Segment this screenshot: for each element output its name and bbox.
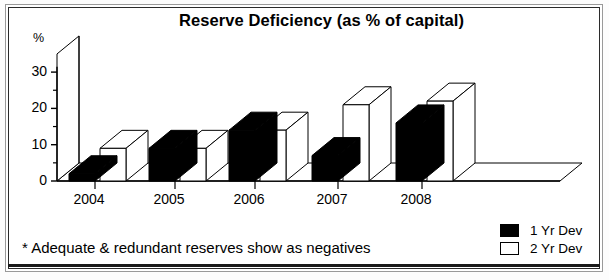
legend-swatch-hollow-icon — [500, 242, 519, 255]
y-tick-label: 20 — [21, 99, 47, 115]
x-tick-label: 2007 — [297, 191, 367, 207]
y-tick-label: 0 — [21, 172, 47, 188]
x-tick-label: 2005 — [134, 191, 204, 207]
legend-item-2-yr-dev: 2 Yr Dev — [500, 240, 582, 257]
chart-figure: Reserve Deficiency (as % of capital) % 0… — [0, 0, 609, 280]
y-tick-label: 30 — [21, 63, 47, 79]
chart-footnote: * Adequate & redundant reserves show as … — [22, 239, 371, 256]
x-tick-label: 2008 — [381, 191, 451, 207]
x-tick-label: 2004 — [54, 191, 124, 207]
y-tick-label: 10 — [21, 136, 47, 152]
legend-item-1-yr-dev: 1 Yr Dev — [500, 222, 582, 239]
chart-legend: 1 Yr Dev 2 Yr Dev — [500, 222, 582, 258]
legend-label: 2 Yr Dev — [530, 242, 582, 255]
legend-swatch-filled-icon — [500, 224, 519, 237]
x-tick-label: 2006 — [214, 191, 284, 207]
legend-label: 1 Yr Dev — [530, 224, 582, 237]
